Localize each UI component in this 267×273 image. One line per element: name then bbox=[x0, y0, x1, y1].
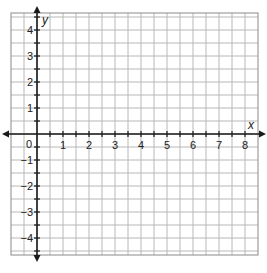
origin-label: 0 bbox=[26, 138, 32, 150]
x-tick-label-6: 6 bbox=[190, 139, 196, 151]
x-axis-left-arrow-icon bbox=[2, 131, 9, 138]
y-tick-label-neg2: −2 bbox=[20, 180, 33, 192]
x-axis-right-arrow-icon bbox=[259, 131, 266, 138]
x-tick-label-5: 5 bbox=[164, 139, 170, 151]
y-tick-label-3: 3 bbox=[27, 50, 33, 62]
x-tick-label-8: 8 bbox=[242, 139, 248, 151]
y-tick-label-2: 2 bbox=[27, 76, 33, 88]
x-axis-label: x bbox=[247, 118, 255, 132]
x-tick-label-7: 7 bbox=[216, 139, 222, 151]
y-tick-label-1: 1 bbox=[27, 102, 33, 114]
y-axis-label: y bbox=[41, 13, 49, 27]
y-axis-down-arrow-icon bbox=[34, 255, 41, 262]
x-tick-label-4: 4 bbox=[138, 139, 144, 151]
coordinate-grid: y x 0 1 2 3 4 5 6 7 8 1 2 3 4 −1 −2 −3 −… bbox=[0, 0, 267, 273]
x-tick-label-3: 3 bbox=[112, 139, 118, 151]
y-tick-label-neg4: −4 bbox=[20, 232, 33, 244]
y-tick-label-neg3: −3 bbox=[20, 206, 33, 218]
x-tick-label-2: 2 bbox=[86, 139, 92, 151]
y-tick-label-neg1: −1 bbox=[20, 154, 33, 166]
y-tick-label-4: 4 bbox=[27, 24, 33, 36]
y-axis-up-arrow-icon bbox=[34, 6, 41, 13]
x-tick-label-1: 1 bbox=[60, 139, 66, 151]
